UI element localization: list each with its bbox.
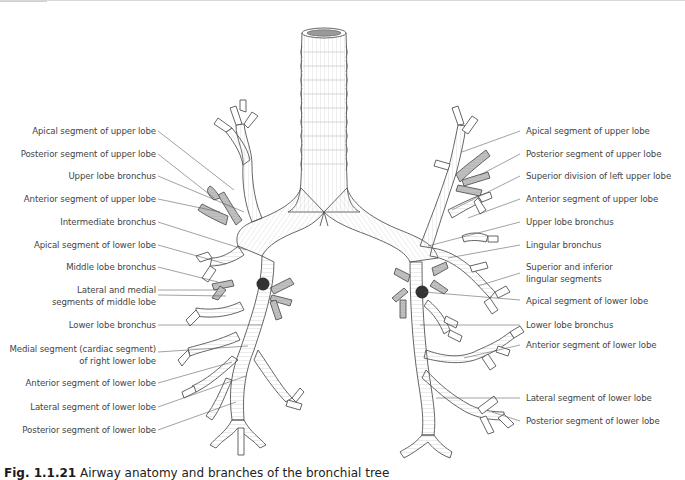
label-left-posterior-upper: Posterior segment of upper lobe bbox=[526, 149, 661, 160]
label-right-posterior-lower: Posterior segment of lower lobe bbox=[22, 425, 156, 436]
figure-caption-text: Airway anatomy and branches of the bronc… bbox=[80, 466, 389, 480]
label-right-medial-cardiac-line2: of right lower lobe bbox=[79, 356, 156, 367]
label-right-anterior-lower: Anterior segment of lower lobe bbox=[26, 378, 156, 389]
label-right-lower-lobe-bronchus: Lower lobe bronchus bbox=[69, 320, 156, 331]
main-bronchi bbox=[237, 188, 438, 262]
label-right-upper-lobe-bronchus: Upper lobe bronchus bbox=[68, 171, 156, 182]
label-left-anterior-lower: Anterior segment of lower lobe bbox=[526, 340, 656, 351]
label-left-apical-lower: Apical segment of lower lobe bbox=[526, 296, 648, 307]
label-left-lingular-bronchus: Lingular bronchus bbox=[526, 240, 601, 251]
label-right-middle-lobe-bronchus: Middle lobe bronchus bbox=[66, 262, 156, 273]
label-right-medial-cardiac-line1: Medial segment (cardiac segment) bbox=[10, 344, 157, 355]
label-right-lateral-medial-middle-line1: Lateral and medial bbox=[77, 285, 156, 296]
figure-caption: Fig. 1.1.21 Airway anatomy and branches … bbox=[4, 466, 389, 480]
label-left-lateral-lower: Lateral segment of lower lobe bbox=[526, 393, 652, 404]
label-left-sup-inf-lingular-line2: lingular segments bbox=[526, 274, 602, 285]
label-right-posterior-upper: Posterior segment of upper lobe bbox=[21, 149, 156, 160]
label-right-lateral-medial-middle-line2: segments of middle lobe bbox=[52, 297, 156, 308]
label-left-lower-lobe-bronchus: Lower lobe bronchus bbox=[526, 320, 613, 331]
label-left-sup-inf-lingular-line1: Superior and inferior bbox=[526, 262, 613, 273]
label-right-lateral-lower: Lateral segment of lower lobe bbox=[30, 402, 156, 413]
left-bronchial-tree bbox=[392, 106, 524, 458]
label-left-apical-upper: Apical segment of upper lobe bbox=[526, 126, 650, 137]
label-left-upper-lobe-bronchus: Upper lobe bronchus bbox=[526, 217, 614, 228]
right-node-marker bbox=[257, 278, 270, 291]
label-left-anterior-upper: Anterior segment of upper lobe bbox=[526, 194, 658, 205]
right-bronchial-tree bbox=[178, 100, 304, 455]
label-right-apical-lower: Apical segment of lower lobe bbox=[34, 240, 156, 251]
figure-number: Fig. 1.1.21 bbox=[4, 466, 76, 480]
label-right-apical-upper: Apical segment of upper lobe bbox=[32, 126, 156, 137]
label-left-superior-division: Superior division of left upper lobe bbox=[526, 171, 671, 182]
trachea bbox=[288, 28, 360, 212]
label-right-intermediate-bronchus: Intermediate bronchus bbox=[60, 217, 156, 228]
label-right-anterior-upper: Anterior segment of upper lobe bbox=[24, 194, 156, 205]
label-left-posterior-lower: Posterior segment of lower lobe bbox=[526, 416, 660, 427]
